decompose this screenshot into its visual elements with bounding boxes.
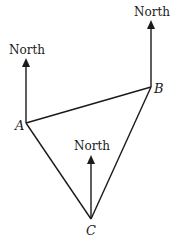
arrowhead-icon bbox=[87, 155, 95, 164]
arrowhead-icon bbox=[22, 58, 30, 67]
north-label-c: North bbox=[74, 140, 110, 152]
north-label-b: North bbox=[134, 6, 170, 18]
north-label-a: North bbox=[9, 44, 45, 56]
point-label-c: C bbox=[86, 224, 96, 237]
edge-ab bbox=[26, 87, 151, 123]
arrowhead-icon bbox=[147, 20, 155, 29]
edge-bc bbox=[91, 87, 151, 219]
edge-ca bbox=[26, 123, 91, 219]
point-label-a: A bbox=[15, 119, 24, 132]
diagram-svg bbox=[0, 0, 177, 247]
point-label-b: B bbox=[154, 82, 164, 95]
diagram-canvas: North North North A B C bbox=[0, 0, 177, 247]
